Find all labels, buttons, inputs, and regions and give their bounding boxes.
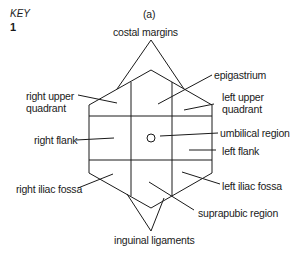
label-inguinal-ligaments: inguinal ligaments (114, 234, 194, 246)
leader-right-upper-quadrant (78, 95, 117, 103)
label-right-upper-quadrant-line1: right upper (26, 90, 74, 102)
umbilicus-circle (147, 134, 155, 142)
abdomen-hexagon (89, 70, 212, 208)
label-right-upper-quadrant-line2: quadrant (26, 102, 66, 114)
costal-pointer-right (151, 40, 184, 89)
leader-umbilical-region (160, 133, 218, 136)
label-right-flank: right flank (34, 134, 77, 146)
leader-epigastrium (158, 75, 212, 104)
label-costal-margins: costal margins (113, 26, 178, 38)
leader-right-flank (76, 138, 114, 140)
label-left-flank: left flank (222, 145, 259, 157)
inguinal-pointer-right (151, 198, 164, 231)
leader-left-iliac-fossa (182, 172, 220, 184)
label-epigastrium: epigastrium (214, 69, 266, 81)
costal-pointer-left (117, 40, 151, 89)
leader-left-upper-quadrant (184, 104, 214, 110)
inguinal-pointer-left (127, 194, 151, 231)
label-left-upper-quadrant-line1: left upper (222, 91, 264, 103)
label-umbilical-region: umbilical region (220, 127, 290, 139)
label-left-upper-quadrant-line2: quadrant (222, 103, 262, 115)
label-left-iliac-fossa: left iliac fossa (222, 180, 282, 192)
label-right-iliac-fossa: right iliac fossa (16, 183, 82, 195)
label-suprapubic-region: suprapubic region (198, 207, 278, 219)
